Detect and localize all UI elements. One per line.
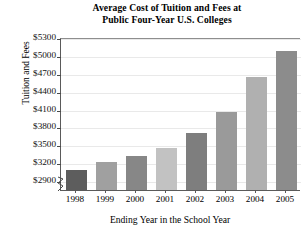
x-axis-tick — [165, 190, 166, 193]
chart-title-line2: Public Four-Year U.S. Colleges — [28, 14, 306, 26]
x-axis-tick-label: 2000 — [118, 194, 152, 204]
x-axis-tick-label: 2005 — [268, 194, 302, 204]
x-axis-tick — [75, 190, 76, 193]
x-axis-tick — [195, 190, 196, 193]
bar — [66, 170, 87, 191]
chart-title-line1: Average Cost of Tuition and Fees at — [93, 2, 242, 13]
x-axis-title: Ending Year in the School Year — [40, 214, 300, 225]
bar — [216, 112, 237, 191]
bar-chart: Average Cost of Tuition and Fees at Publ… — [0, 0, 308, 239]
bar — [276, 51, 297, 191]
bar — [156, 148, 177, 191]
x-axis-tick-label: 2002 — [178, 194, 212, 204]
x-axis-tick — [255, 190, 256, 193]
x-axis-tick-label: 2001 — [148, 194, 182, 204]
x-axis-tick-label: 1999 — [88, 194, 122, 204]
plot-area — [60, 38, 300, 190]
x-axis-line — [60, 190, 300, 191]
bar — [246, 77, 267, 191]
chart-title: Average Cost of Tuition and Fees at Publ… — [28, 2, 306, 25]
x-axis-tick-label: 2004 — [238, 194, 272, 204]
x-axis-tick — [285, 190, 286, 193]
x-axis-tick — [225, 190, 226, 193]
x-axis-tick-label: 1998 — [58, 194, 92, 204]
bar — [126, 156, 147, 191]
bar — [186, 133, 207, 191]
x-axis-tick-label: 2003 — [208, 194, 242, 204]
y-axis-title: Tuition and Fees — [21, 18, 31, 128]
bar-series — [61, 39, 301, 191]
bar — [96, 162, 117, 191]
x-axis-tick — [135, 190, 136, 193]
x-axis-tick — [105, 190, 106, 193]
